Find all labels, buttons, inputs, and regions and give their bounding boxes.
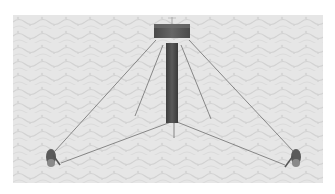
tower-render: [13, 15, 323, 183]
tower-render-svg: [13, 15, 323, 183]
tower-column: [166, 43, 178, 123]
